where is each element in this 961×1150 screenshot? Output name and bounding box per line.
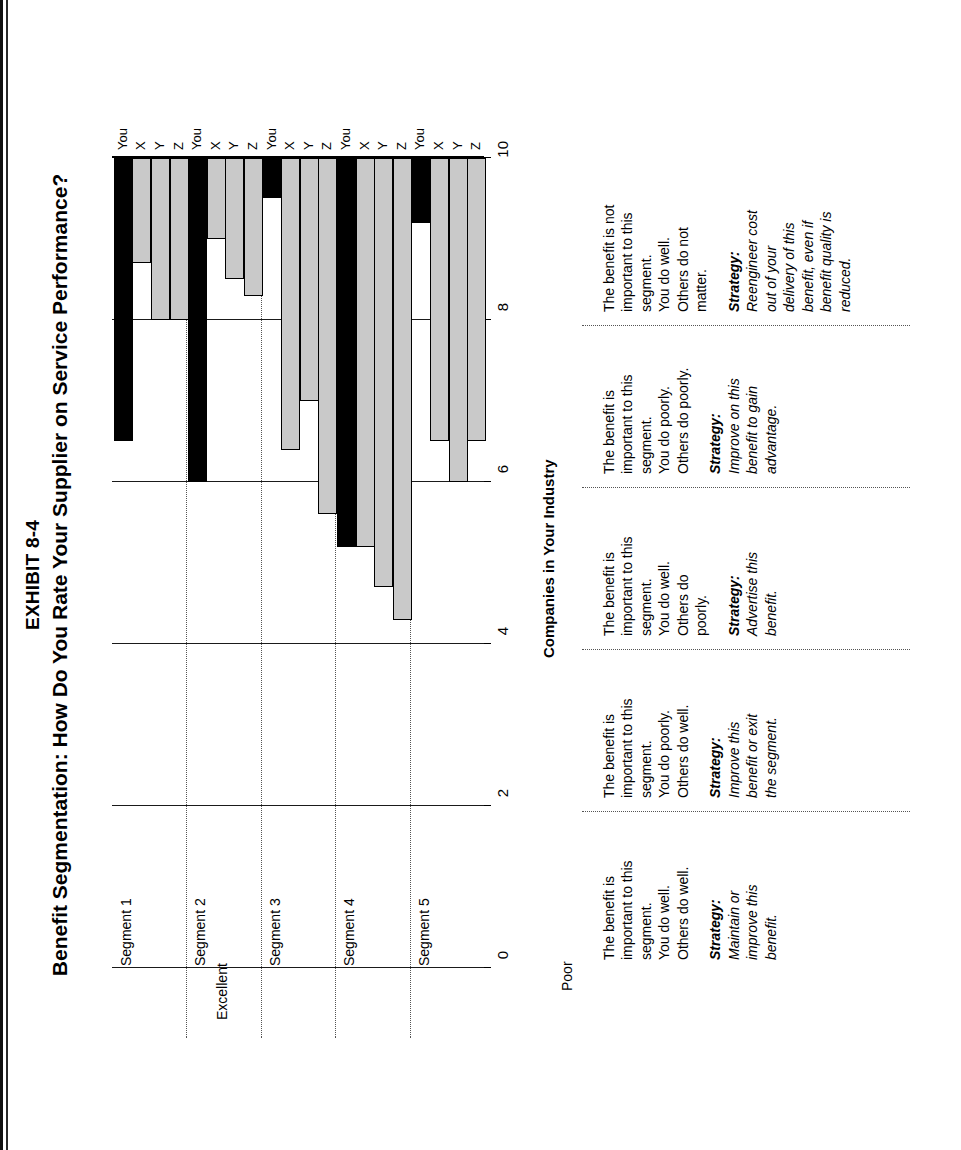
bar-label-x: X [133,141,148,150]
bar-segment-3-x [281,158,300,450]
exhibit-page: EXHIBIT 8-4 Benefit Segmentation: How Do… [0,0,961,1150]
description-divider [582,811,910,812]
bar-label-y: Y [152,141,167,150]
bar-segment-5-you [411,158,430,223]
y-axis-top-label: Excellent [214,963,230,1020]
bar-label-x: X [431,141,446,150]
exhibit-number: EXHIBIT 8-4 [22,0,44,1150]
strategy-label: Strategy: [726,251,742,312]
bar-segment-4-z [393,158,412,620]
bar-segment-1-x [132,158,151,263]
segment-strategy: Strategy:Reengineer cost out of your del… [725,162,854,312]
description-divider [582,325,910,326]
description-divider [582,649,910,650]
segment-description-text: The benefit is important to this segment… [600,810,692,960]
segment-label-5: Segment 5 [416,898,432,966]
segment-description-2: The benefit is important to this segment… [600,648,780,798]
bar-label-y: Y [301,141,316,150]
y-tick-label-0: 0 [494,951,511,985]
segment-label-2: Segment 2 [192,898,208,966]
segment-descriptions: The benefit is important to this segment… [600,158,900,1038]
bar-segment-2-you [188,158,207,482]
segment-description-5: The benefit is not important to this seg… [600,162,854,312]
bar-label-y: Y [450,141,465,150]
strategy-text: Improve this benefit or exit the segment… [725,648,780,798]
bar-segment-1-you [114,158,133,442]
bar-segment-4-y [374,158,393,587]
strategy-text: Maintain or improve this benefit. [725,810,780,960]
segment-label-3: Segment 3 [267,898,283,966]
bar-label-y: Y [375,141,390,150]
segment-description-text: The benefit is important to this segment… [600,486,711,636]
segment-description-text: The benefit is not important to this seg… [600,162,711,312]
bar-segment-3-you [263,158,282,199]
segment-label-1: Segment 1 [118,898,134,966]
y-tick-label-8: 8 [494,303,511,337]
bar-label-z: Z [171,142,186,150]
bar-segment-4-x [356,158,375,547]
y-tick-label-10: 10 [494,141,511,175]
bar-label-you: You [115,128,130,150]
y-tick-label-2: 2 [494,789,511,823]
strategy-text: Reengineer cost out of your delivery of … [743,162,854,312]
bar-label-you: You [189,128,204,150]
gridline-0 [112,967,484,968]
bar-label-z: Z [468,142,483,150]
bar-segment-2-y [225,158,244,280]
bar-label-x: X [282,141,297,150]
segment-strategy: Strategy:Advertise this benefit. [725,486,780,636]
gridline-6 [112,481,484,482]
segment-strategy: Strategy:Improve this benefit or exit th… [706,648,780,798]
description-divider [582,487,910,488]
strategy-label: Strategy: [707,413,723,474]
bar-segment-4-you [337,158,356,547]
bar-segment-3-z [318,158,337,514]
gridline-2 [112,805,484,806]
page-edge-rule-secondary [6,0,8,1150]
bar-label-y: Y [226,141,241,150]
bar-segment-2-x [207,158,226,239]
segment-description-3: The benefit is important to this segment… [600,486,780,636]
bar-segment-5-z [467,158,486,442]
tickmark-0 [484,967,491,968]
bar-label-x: X [208,141,223,150]
y-axis-bottom-label: Poor [559,961,575,991]
page-edge-rule [0,0,3,1150]
bar-label-z: Z [319,142,334,150]
tickmark-4 [484,643,491,644]
strategy-text: Advertise this benefit. [743,486,780,636]
x-axis-title: Companies in Your Industry [540,459,557,658]
strategy-label: Strategy: [707,737,723,798]
tickmark-2 [484,805,491,806]
bar-label-x: X [357,141,372,150]
y-tick-label-6: 6 [494,465,511,499]
segment-description-4: The benefit is important to this segment… [600,324,780,474]
exhibit-title: Benefit Segmentation: How Do You Rate Yo… [48,0,72,1150]
bar-segment-1-y [151,158,170,320]
segment-description-text: The benefit is important to this segment… [600,648,692,798]
bar-label-you: You [412,128,427,150]
bar-label-you: You [338,128,353,150]
bar-chart: Excellent Poor 1086420 Segment 1Segment … [112,158,542,1038]
gridline-4 [112,643,484,644]
bar-segment-5-y [449,158,468,482]
bar-segment-1-z [170,158,189,320]
strategy-label: Strategy: [707,899,723,960]
bar-segment-5-x [430,158,449,442]
strategy-text: Improve on this benefit to gain advantag… [725,324,780,474]
bar-segment-2-z [244,158,263,296]
y-tick-label-4: 4 [494,627,511,661]
segment-description-text: The benefit is important to this segment… [600,324,692,474]
bar-label-you: You [264,128,279,150]
bar-label-z: Z [394,142,409,150]
rotated-page-wrapper: EXHIBIT 8-4 Benefit Segmentation: How Do… [0,0,961,1150]
segment-strategy: Strategy:Improve on this benefit to gain… [706,324,780,474]
tickmark-6 [484,481,491,482]
segment-description-1: The benefit is important to this segment… [600,810,780,960]
bar-label-z: Z [245,142,260,150]
strategy-label: Strategy: [726,575,742,636]
bar-segment-3-y [300,158,319,401]
segment-label-4: Segment 4 [341,898,357,966]
segment-strategy: Strategy:Maintain or improve this benefi… [706,810,780,960]
